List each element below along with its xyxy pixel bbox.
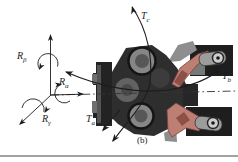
torque-c-label: Tc: [141, 11, 150, 23]
lower-pivot-pin: [211, 121, 215, 125]
panel-label: (b): [137, 136, 148, 145]
reaction-beta-label: Rβ: [17, 51, 27, 63]
reaction-alpha-label: Rα: [59, 77, 69, 89]
rotation-axes: [21, 37, 82, 123]
free-body-diagram: [0, 0, 238, 162]
torque-a-label: Ta: [86, 114, 95, 126]
housing-tab: [183, 84, 198, 106]
flange-lug-bottom: [92, 101, 97, 113]
alpha-axis: [51, 94, 82, 95]
housing-shade: [150, 68, 170, 88]
bottom-rule: [0, 155, 238, 157]
top-knob-center: [135, 54, 149, 68]
figure-panel: Rβ Rα Rγ Tc Tb Ta (b): [0, 0, 238, 162]
upper-pivot-pin: [216, 56, 220, 60]
torque-b-label: Tb: [222, 71, 231, 83]
reaction-gamma-arc: [22, 99, 44, 112]
reaction-gamma-label: Rγ: [42, 114, 51, 126]
torque-b-left-arrowhead: [64, 69, 74, 77]
